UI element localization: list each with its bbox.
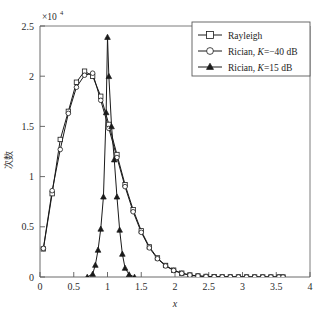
legend-label-rician-m40db: Rician, K=−40 dB [228, 47, 298, 57]
triangle-marker [117, 227, 123, 232]
square-marker [58, 137, 62, 141]
y-tick-labels: 0 0.5 1 1.5 2 2.5 [22, 21, 35, 283]
series-rician-m40db-line [43, 73, 283, 277]
x-tick-label: 3 [240, 281, 245, 292]
circle-marker [90, 71, 95, 76]
triangle-marker [93, 262, 99, 267]
legend[interactable]: Rayleigh Rician, K=−40 dB Rician, K=15 d… [192, 22, 310, 76]
circle-marker [260, 275, 265, 280]
circle-marker-icon [207, 48, 214, 55]
x-tick-label: 4 [308, 281, 313, 292]
x-axis-title: x [172, 298, 178, 309]
y-tick-label: 1 [29, 171, 34, 182]
y-tick-label: 1.5 [22, 121, 35, 132]
y-exponent-mantissa: ×10 [42, 12, 57, 22]
circle-marker [131, 209, 136, 214]
circle-marker [147, 246, 152, 251]
x-tick-label: 3.5 [270, 281, 283, 292]
circle-marker [58, 147, 63, 152]
y-tick-label: 2.5 [22, 21, 35, 32]
circle-marker [228, 275, 233, 280]
legend-label-rician-15db: Rician, K=15 dB [228, 63, 292, 73]
y-tick-label: 2 [29, 71, 34, 82]
circle-marker [252, 275, 257, 280]
circle-marker [188, 273, 193, 278]
y-tick-label: 0 [29, 272, 34, 283]
circle-marker [204, 274, 209, 279]
legend-label-rayleigh: Rayleigh [228, 31, 263, 41]
circle-marker [179, 271, 184, 276]
square-marker-icon [207, 32, 214, 39]
circle-marker [82, 73, 87, 78]
x-tick-label: 2.5 [203, 281, 216, 292]
triangle-marker [126, 272, 132, 277]
circle-marker [171, 268, 176, 273]
triangle-marker [105, 34, 111, 39]
y-axis-exponent: ×10 4 [42, 9, 64, 22]
circle-marker [74, 85, 79, 90]
circle-marker [220, 275, 225, 280]
triangle-marker [98, 226, 104, 231]
triangle-marker [120, 251, 126, 256]
triangle-marker [122, 265, 128, 270]
circle-marker [139, 230, 144, 235]
circle-marker [155, 256, 160, 261]
circle-marker [281, 275, 286, 280]
triangle-marker [95, 247, 101, 252]
circle-marker [236, 275, 241, 280]
x-tick-label: 1 [105, 281, 110, 292]
series-rayleigh-line [43, 71, 283, 277]
x-tick-label: 1.5 [135, 281, 148, 292]
circle-marker [163, 264, 168, 269]
circle-marker [41, 246, 46, 251]
circle-marker [50, 188, 55, 193]
series-rayleigh-markers [41, 69, 285, 279]
x-tick-label: 0 [38, 281, 43, 292]
circle-marker [123, 184, 128, 189]
circle-marker [66, 111, 71, 116]
chart-figure: 0 0.5 1 1.5 2 2.5 3 3.5 4 0 0.5 1 1.5 2 … [0, 0, 327, 318]
x-tick-label: 0.5 [68, 281, 81, 292]
circle-marker [244, 275, 249, 280]
triangle-marker [90, 271, 96, 276]
series-rician-m40db-markers [41, 71, 285, 279]
triangle-marker [101, 194, 107, 199]
plot-canvas: 0 0.5 1 1.5 2 2.5 3 3.5 4 0 0.5 1 1.5 2 … [0, 0, 327, 318]
y-exponent-power: 4 [60, 9, 64, 16]
circle-marker [269, 275, 274, 280]
y-tick-label: 0.5 [22, 221, 35, 232]
circle-marker [196, 274, 201, 279]
circle-marker [212, 274, 217, 279]
x-tick-label: 2 [173, 281, 178, 292]
triangle-marker [114, 194, 120, 199]
square-marker [74, 80, 78, 84]
y-axis-title: 次数 [3, 151, 14, 169]
x-tick-labels: 0 0.5 1 1.5 2 2.5 3 3.5 4 [38, 281, 313, 292]
circle-marker [98, 98, 103, 103]
